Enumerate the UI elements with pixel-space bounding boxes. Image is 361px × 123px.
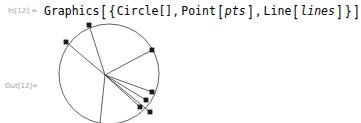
code-token-close-bracket-1: ] — [353, 7, 360, 18]
graphics-output[interactable] — [52, 20, 172, 123]
point-group — [64, 23, 155, 115]
code-token-open-bracket-3: [ — [292, 7, 299, 18]
code-token-point: Point — [181, 4, 216, 18]
code-token-pts-symbol: pts — [225, 4, 246, 18]
input-cell-label: In[12]:= — [8, 7, 37, 15]
line-segment — [105, 50, 152, 75]
line-segment — [100, 75, 105, 123]
code-token-lines-symbol: lines — [300, 4, 335, 18]
circle-shape — [59, 24, 159, 123]
circle-points-lines-plot — [52, 20, 172, 123]
code-token-open-bracket-1: [ — [100, 7, 107, 18]
code-token-close-bracket-2: ] — [247, 7, 254, 18]
code-token-comma-2: , — [255, 4, 262, 18]
code-token-open-brace: { — [109, 6, 116, 17]
output-cell[interactable]: Out[12]= — [0, 20, 342, 123]
code-token-comma-1: , — [172, 4, 179, 18]
input-code-expression[interactable]: Graphics[{Circle[],Point[pts],Line[lines… — [44, 2, 361, 20]
data-point-marker — [148, 110, 153, 115]
line-segment — [89, 25, 105, 75]
data-point-marker — [138, 105, 143, 110]
code-token-close-bracket-3: ] — [336, 7, 343, 18]
code-token-line: Line — [264, 4, 292, 18]
code-token-circle-args: [] — [158, 4, 172, 18]
data-point-marker — [64, 40, 69, 45]
code-token-close-brace: } — [345, 6, 352, 17]
code-token-circle: Circle — [117, 4, 159, 18]
data-point-marker — [150, 48, 155, 53]
output-cell-label: Out[12]= — [5, 82, 38, 90]
data-point-marker — [87, 23, 92, 28]
data-point-marker — [144, 98, 149, 103]
code-token-graphics: Graphics — [44, 4, 99, 18]
line-segment — [66, 42, 105, 75]
data-point-marker — [150, 90, 155, 95]
line-segment — [105, 75, 150, 112]
code-token-open-bracket-2: [ — [217, 7, 224, 18]
